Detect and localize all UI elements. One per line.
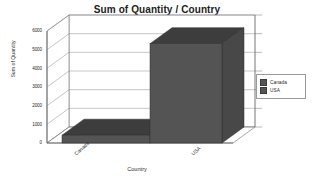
legend-swatch-canada: [260, 79, 267, 86]
legend-swatch-usa: [260, 87, 267, 94]
legend-label-usa: USA: [270, 88, 280, 94]
chart-container: Sum of Quantity / Country Sum of Quantit…: [0, 0, 314, 182]
legend-item-usa[interactable]: USA: [260, 87, 302, 94]
y-tick-3000: 3000: [20, 84, 42, 89]
y-tick-0: 0: [20, 140, 42, 145]
bar-usa[interactable]: [150, 28, 244, 143]
legend: Canada USA: [256, 74, 306, 99]
bar-canada-front: [62, 135, 150, 143]
legend-label-canada: Canada: [270, 80, 287, 86]
legend-item-canada[interactable]: Canada: [260, 79, 302, 86]
y-tick-6000: 6000: [20, 28, 42, 33]
y-tick-1000: 1000: [20, 122, 42, 127]
bar-usa-side: [222, 28, 244, 143]
right-axis-ticks: [255, 15, 262, 127]
bar-usa-front: [150, 44, 222, 143]
y-tick-4000: 4000: [20, 66, 42, 71]
y-tick-5000: 5000: [20, 47, 42, 52]
y-tick-2000: 2000: [20, 103, 42, 108]
